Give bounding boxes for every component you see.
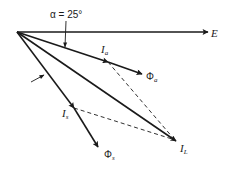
label-ia: Ia <box>100 43 109 57</box>
phasor-diagram: E Ia Φa IL Is Φs α = 25° <box>0 0 232 169</box>
label-phia: Φa <box>146 71 158 84</box>
label-il: IL <box>179 142 188 156</box>
alpha-pointer-arrow <box>65 21 66 47</box>
angle-pointer-arrow <box>31 75 44 82</box>
label-is: Is <box>61 107 69 121</box>
vector-il <box>17 32 176 141</box>
vector-phis <box>74 108 98 147</box>
label-e: E <box>210 27 218 39</box>
label-alpha: α = 25° <box>50 9 82 20</box>
label-phis: Φs <box>104 149 115 162</box>
dashed-is-to-il <box>74 108 172 139</box>
vector-ia <box>17 32 108 62</box>
